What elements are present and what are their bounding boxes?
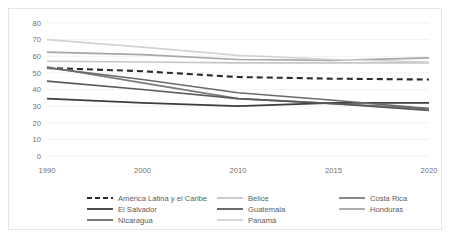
- x-axis-tick-label: 2020: [421, 166, 438, 175]
- legend-item-label: América Latina y el Caribe: [118, 194, 207, 203]
- y-axis-tick-label: 50: [33, 69, 41, 78]
- y-axis-tick-label: 60: [33, 52, 41, 61]
- y-axis-tick-labels: 01020304050607080: [33, 19, 41, 161]
- y-axis-tick-label: 70: [33, 35, 41, 44]
- y-axis-tick-label: 30: [33, 102, 41, 111]
- line-chart: 01020304050607080 19902000201020152020 A…: [9, 9, 443, 231]
- x-axis-tick-label: 2010: [230, 166, 247, 175]
- y-axis-tick-label: 20: [33, 119, 41, 128]
- chart-card: 01020304050607080 19902000201020152020 A…: [8, 8, 442, 230]
- x-axis-tick-labels: 19902000201020152020: [39, 166, 438, 175]
- y-axis-tick-label: 40: [33, 85, 41, 94]
- x-axis-tick-label: 2015: [325, 166, 342, 175]
- x-axis-tick-label: 1990: [39, 166, 56, 175]
- chart-plot-area: 01020304050607080 19902000201020152020 A…: [9, 9, 443, 231]
- series-line: [47, 61, 429, 63]
- legend-item-label: Costa Rica: [370, 194, 408, 203]
- legend-item-label: Nicaragua: [118, 216, 153, 225]
- x-axis-tick-label: 2000: [134, 166, 151, 175]
- legend-item-label: Panamá: [248, 216, 277, 225]
- y-axis-tick-label: 10: [33, 135, 41, 144]
- legend-item-label: El Salvador: [118, 205, 157, 214]
- legend-item-label: Belice: [248, 194, 269, 203]
- series-lines-group: [47, 40, 429, 111]
- legend-item-label: Honduras: [370, 205, 403, 214]
- chart-legend: América Latina y el CaribeBeliceCosta Ri…: [87, 194, 408, 225]
- legend-item-label: Guatemala: [248, 205, 286, 214]
- gridlines-group: [47, 23, 429, 156]
- y-axis-tick-label: 80: [33, 19, 41, 28]
- y-axis-tick-label: 0: [37, 152, 41, 161]
- series-line: [47, 68, 429, 80]
